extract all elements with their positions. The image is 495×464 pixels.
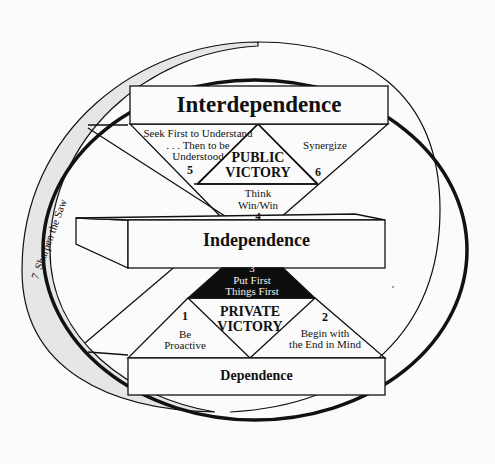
independence-label: Independence <box>128 231 385 250</box>
habit-6-number: 6 <box>312 166 324 179</box>
stray-dot <box>392 286 394 288</box>
habit-1-line2: Proactive <box>160 340 210 352</box>
habit-1-text: 1 Be Proactive <box>160 310 210 352</box>
habit-2-number: 2 <box>275 311 375 324</box>
habit-3-line2: Things First <box>214 286 290 298</box>
habit-5-line3: Understood <box>138 151 258 163</box>
public-victory-line2: VICTORY <box>218 166 298 181</box>
habit-5-text: Seek First to Understand . . . Then to b… <box>138 128 258 163</box>
interdependence-label: Interdependence <box>130 93 388 117</box>
habit-3-text: 3 Put First Things First <box>214 263 290 298</box>
habit-5-line1: Seek First to Understand <box>138 128 258 140</box>
habit-4-text: Think Win/Win 4 <box>225 188 291 223</box>
habit-5-number: 5 <box>184 164 196 177</box>
habit-2-line2: the End in Mind <box>275 339 375 351</box>
habit-6-text: Synergize <box>290 140 360 152</box>
habit-3-number: 3 <box>214 263 290 275</box>
independence-block-side <box>76 218 128 268</box>
habit-2-text: 2 Begin with the End in Mind <box>275 311 375 351</box>
habit-4-number: 4 <box>225 211 291 223</box>
habit-1-number: 1 <box>160 310 210 323</box>
habit-4-line1: Think <box>225 188 291 200</box>
dependence-label: Dependence <box>128 369 385 384</box>
